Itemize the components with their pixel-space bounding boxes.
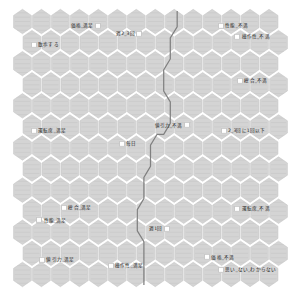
map-label[interactable]: 値引力_不満 — [155, 122, 190, 128]
map-label[interactable]: 性能_満足 — [36, 217, 66, 223]
label-text: 毎日 — [126, 141, 136, 146]
label-text: 総合_満足 — [68, 205, 91, 210]
label-text: 思い_ない_わからない — [225, 267, 276, 272]
label-text: 値引力_不満 — [155, 122, 183, 127]
label-text: 値引力_満足 — [46, 257, 74, 262]
label-marker-icon — [36, 217, 42, 223]
map-label[interactable]: 週2_3回 — [116, 31, 142, 37]
map-label[interactable]: 価格_不満 — [204, 254, 234, 260]
label-text: 週2_3回 — [116, 31, 135, 36]
map-label[interactable]: 総合_不満 — [237, 78, 267, 84]
map-label[interactable]: 思い_ない_わからない — [218, 267, 276, 273]
map-label[interactable]: 2_3回に1回以下 — [221, 128, 265, 134]
label-text: 価格_満足 — [71, 23, 94, 28]
label-marker-icon — [95, 23, 101, 29]
map-label[interactable]: 週1回 — [149, 226, 170, 232]
som-map-container: 価格_満足散歩する週2_3回性能_不満操作性_不満総合_不満運転席_満足値引力_… — [0, 0, 301, 296]
label-marker-icon — [108, 263, 114, 269]
label-text: 操作性_満足 — [115, 263, 143, 268]
map-label[interactable]: 操作性_不満 — [234, 34, 269, 40]
label-text: 週1回 — [149, 226, 162, 231]
label-marker-icon — [136, 31, 142, 37]
map-label[interactable]: 操作性_満足 — [108, 263, 143, 269]
label-text: 性能_不満 — [225, 23, 248, 28]
label-marker-icon — [234, 206, 240, 212]
label-marker-icon — [39, 256, 45, 262]
map-label[interactable]: 値引力_満足 — [39, 257, 74, 263]
label-marker-icon — [221, 127, 227, 133]
label-marker-icon — [31, 42, 37, 48]
label-marker-icon — [218, 23, 224, 29]
map-label[interactable]: 性能_不満 — [218, 23, 248, 29]
label-marker-icon — [234, 34, 240, 40]
label-text: 運転席_満足 — [38, 128, 66, 133]
map-label[interactable]: 価格_満足 — [71, 23, 101, 29]
label-text: 総合_不満 — [244, 78, 267, 83]
label-text: 運転席_不満 — [242, 206, 270, 211]
map-label[interactable]: 総合_満足 — [61, 205, 91, 211]
map-label[interactable]: 運転席_満足 — [31, 128, 66, 134]
label-text: 操作性_不満 — [242, 34, 270, 39]
label-marker-icon — [119, 141, 125, 147]
label-marker-icon — [61, 204, 67, 210]
label-text: 性能_満足 — [44, 217, 67, 222]
map-label[interactable]: 運転席_不満 — [234, 206, 269, 212]
label-marker-icon — [204, 254, 210, 260]
label-text: 価格_不満 — [211, 254, 234, 259]
label-marker-icon — [218, 267, 224, 273]
label-marker-icon — [31, 127, 37, 133]
label-marker-icon — [237, 78, 243, 84]
label-marker-icon — [184, 122, 190, 128]
label-text: 2_3回に1回以下 — [228, 128, 265, 133]
map-label[interactable]: 毎日 — [119, 141, 137, 147]
label-marker-icon — [164, 225, 170, 231]
label-text: 散歩する — [38, 42, 58, 47]
map-label[interactable]: 散歩する — [31, 42, 59, 48]
